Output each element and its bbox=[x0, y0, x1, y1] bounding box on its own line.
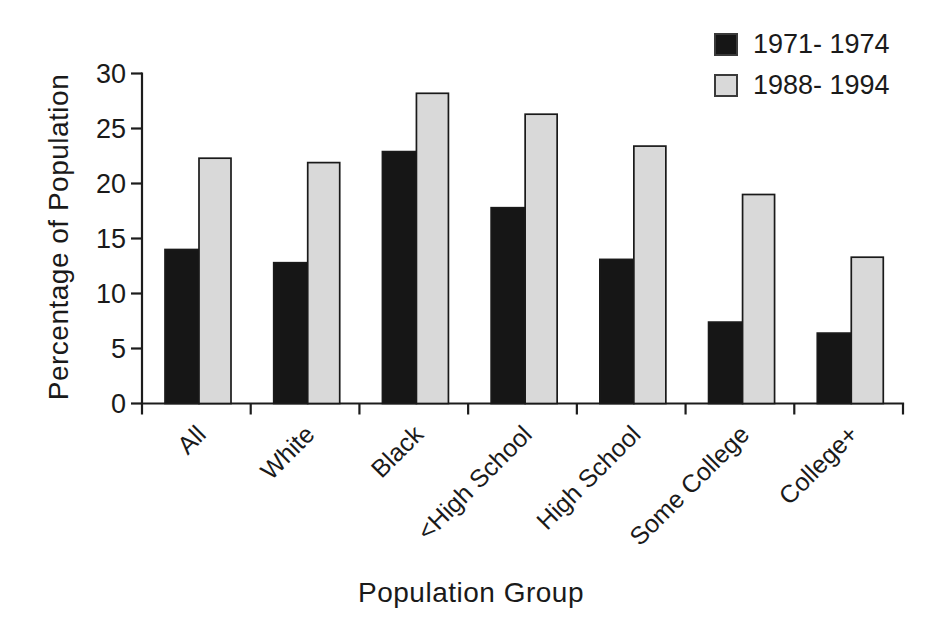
x-category-label: Black bbox=[365, 419, 428, 482]
y-tick-label: 0 bbox=[111, 389, 126, 419]
legend-item-1988-1994: 1988- 1994 bbox=[714, 71, 890, 99]
x-category-label: All bbox=[171, 420, 210, 459]
legend-swatch-1988-1994-icon bbox=[714, 74, 738, 97]
bar-chart-figure: 051015202530AllWhiteBlack<High SchoolHig… bbox=[0, 0, 942, 621]
bar-1988-1994-Black bbox=[416, 93, 448, 403]
legend-item-1971-1974: 1971- 1974 bbox=[714, 30, 890, 58]
bar-1971-1974-Black bbox=[382, 152, 416, 404]
bar-1988-1994-All bbox=[199, 158, 231, 403]
y-axis-title: Percentage of Population bbox=[43, 57, 75, 417]
bar-1971-1974-High-School bbox=[600, 259, 634, 403]
bar-1971-1974-<High-School bbox=[491, 208, 525, 404]
x-axis-title: Population Group bbox=[271, 577, 671, 609]
x-category-label: <High School bbox=[412, 420, 537, 545]
x-category-label: College+ bbox=[773, 420, 863, 510]
legend-label-1971-1974: 1971- 1974 bbox=[753, 29, 890, 60]
y-tick-label: 5 bbox=[111, 334, 126, 364]
x-category-label: White bbox=[255, 420, 320, 485]
bar-1988-1994-White bbox=[308, 163, 340, 404]
x-category-label: High School bbox=[531, 420, 646, 535]
legend: 1971- 1974 1988- 1994 bbox=[714, 30, 890, 112]
bar-1971-1974-White bbox=[274, 263, 308, 404]
y-tick-label: 25 bbox=[96, 114, 126, 144]
bar-1971-1974-College+ bbox=[817, 333, 851, 403]
bar-1971-1974-All bbox=[165, 250, 199, 404]
y-tick-label: 30 bbox=[96, 59, 126, 89]
legend-swatch-1971-1974-icon bbox=[714, 33, 738, 56]
y-tick-label: 20 bbox=[96, 169, 126, 199]
bar-1988-1994-Some-College bbox=[743, 195, 775, 404]
y-tick-label: 15 bbox=[96, 224, 126, 254]
bar-1988-1994-<High-School bbox=[525, 114, 557, 403]
y-tick-label: 10 bbox=[96, 279, 126, 309]
legend-label-1988-1994: 1988- 1994 bbox=[753, 70, 890, 101]
bar-1988-1994-High-School bbox=[634, 146, 666, 403]
bar-1971-1974-Some-College bbox=[709, 322, 743, 403]
bar-1988-1994-College+ bbox=[851, 257, 883, 403]
